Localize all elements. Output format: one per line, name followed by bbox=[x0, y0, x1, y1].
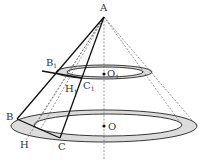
label-B: B bbox=[6, 111, 13, 122]
cone-figure: A B1 O1 H1 C1 B O H C bbox=[0, 0, 206, 162]
point-O1 bbox=[102, 72, 105, 75]
label-O: O bbox=[108, 121, 116, 132]
label-A: A bbox=[99, 2, 108, 13]
label-H1: H1 bbox=[65, 83, 78, 95]
label-H: H bbox=[20, 139, 29, 150]
point-O bbox=[102, 124, 105, 127]
label-C1: C1 bbox=[83, 80, 94, 92]
label-C: C bbox=[58, 141, 66, 152]
cone-diagram: A B1 O1 H1 C1 B O H C bbox=[0, 0, 206, 162]
label-B1: B1 bbox=[46, 57, 57, 69]
